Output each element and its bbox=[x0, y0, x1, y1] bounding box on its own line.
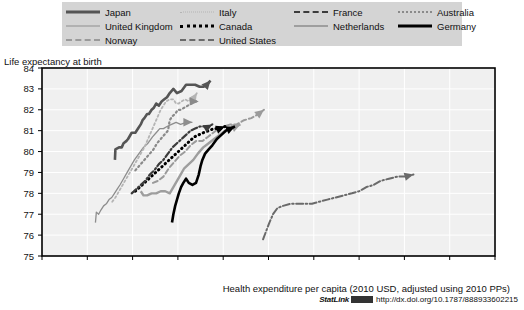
legend-label-japan: Japan bbox=[105, 7, 131, 18]
statlink-url[interactable]: http://dx.doi.org/10.1787/888933602215 bbox=[376, 295, 518, 304]
y-tick-label-78: 78 bbox=[23, 188, 34, 199]
legend-label-netherlands: Netherlands bbox=[333, 21, 384, 32]
legend-line-icon-japan bbox=[66, 7, 100, 18]
x-axis-title: Health expenditure per capita (2010 USD,… bbox=[0, 283, 510, 294]
legend-line-icon-canada bbox=[180, 21, 214, 32]
y-tick-label-79: 79 bbox=[23, 167, 34, 178]
legend-item-australia[interactable]: Australia bbox=[398, 6, 476, 18]
y-tick-label-84: 84 bbox=[23, 63, 34, 74]
legend-item-italy[interactable]: Italy bbox=[180, 6, 276, 18]
legend-line-icon-germany bbox=[398, 21, 432, 32]
legend-line-icon-italy bbox=[180, 7, 214, 18]
legend-item-netherlands[interactable]: Netherlands bbox=[294, 20, 384, 32]
legend-label-uk: United Kingdom bbox=[105, 21, 173, 32]
legend-label-australia: Australia bbox=[437, 7, 474, 18]
y-tick-label-76: 76 bbox=[23, 230, 34, 241]
statlink-barcode-icon bbox=[351, 296, 373, 303]
legend-column-4: AustraliaGermany bbox=[398, 6, 476, 34]
legend-item-japan[interactable]: Japan bbox=[66, 6, 173, 18]
legend-item-uk[interactable]: United Kingdom bbox=[66, 20, 173, 32]
legend-line-icon-australia bbox=[398, 7, 432, 18]
legend-column-3: FranceNetherlands bbox=[294, 6, 384, 34]
legend-label-canada: Canada bbox=[219, 21, 252, 32]
line-chart-svg: 010002000300040005000600070008000900010 … bbox=[0, 60, 524, 260]
statlink-row: StatLinkhttp://dx.doi.org/10.1787/888933… bbox=[0, 295, 518, 304]
legend-column-2: ItalyCanadaUnited States bbox=[180, 6, 276, 48]
legend-label-italy: Italy bbox=[219, 7, 236, 18]
y-tick-label-81: 81 bbox=[23, 125, 34, 136]
legend-line-icon-uk bbox=[66, 21, 100, 32]
legend-label-france: France bbox=[333, 7, 363, 18]
legend-item-canada[interactable]: Canada bbox=[180, 20, 276, 32]
legend-item-germany[interactable]: Germany bbox=[398, 20, 476, 32]
legend-line-icon-us bbox=[180, 35, 214, 46]
legend-label-us: United States bbox=[219, 35, 276, 46]
chart-legend: JapanUnited KingdomNorwayItalyCanadaUnit… bbox=[62, 2, 462, 46]
legend-item-us[interactable]: United States bbox=[180, 34, 276, 46]
legend-line-icon-france bbox=[294, 7, 328, 18]
chart-plot-area: 010002000300040005000600070008000900010 … bbox=[0, 60, 524, 260]
y-tick-label-80: 80 bbox=[23, 146, 34, 157]
legend-label-germany: Germany bbox=[437, 21, 476, 32]
y-tick-label-82: 82 bbox=[23, 104, 34, 115]
legend-line-icon-netherlands bbox=[294, 21, 328, 32]
statlink-label: StatLink bbox=[319, 295, 349, 304]
legend-item-france[interactable]: France bbox=[294, 6, 384, 18]
y-tick-label-75: 75 bbox=[23, 251, 34, 261]
legend-column-1: JapanUnited KingdomNorway bbox=[66, 6, 173, 48]
legend-label-norway: Norway bbox=[105, 35, 137, 46]
legend-line-icon-norway bbox=[66, 35, 100, 46]
y-tick-label-77: 77 bbox=[23, 209, 34, 220]
y-tick-label-83: 83 bbox=[23, 83, 34, 94]
legend-item-norway[interactable]: Norway bbox=[66, 34, 173, 46]
